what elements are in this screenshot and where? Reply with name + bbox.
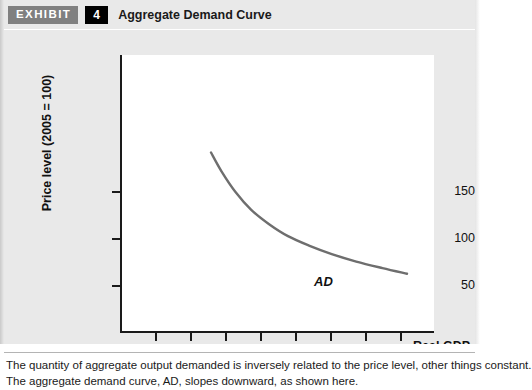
exhibit-number-badge: 4 (85, 6, 108, 24)
caption-line-2: The aggregate demand curve, AD, slopes d… (6, 373, 474, 389)
ad-curve-svg (4, 31, 475, 344)
caption-line-1: The quantity of aggregate output demande… (6, 357, 474, 373)
caption-divider (4, 352, 475, 353)
exhibit-title: Aggregate Demand Curve (118, 9, 272, 22)
exhibit-header: EXHIBIT 4 Aggregate Demand Curve (8, 5, 272, 25)
page-edge-right (475, 0, 480, 378)
ad-curve-label: AD (314, 275, 333, 288)
ad-curve-path (211, 153, 407, 274)
exhibit-caption: The quantity of aggregate output demande… (6, 357, 474, 390)
header-divider (4, 29, 475, 30)
exhibit-tag: EXHIBIT (8, 6, 78, 24)
chart-area: 150 100 50 2 4 6 8 10 12 14 16 0 Price l… (4, 31, 475, 344)
